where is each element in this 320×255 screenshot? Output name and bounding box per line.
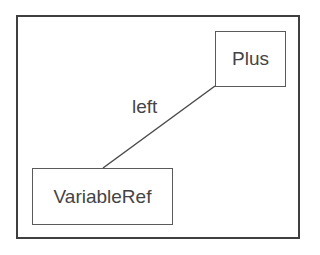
- node-plus: Plus: [215, 31, 286, 87]
- edge-label-left: left: [132, 96, 157, 118]
- node-variableref-label: VariableRef: [54, 186, 152, 208]
- node-plus-label: Plus: [232, 48, 269, 70]
- node-variableref: VariableRef: [32, 168, 173, 225]
